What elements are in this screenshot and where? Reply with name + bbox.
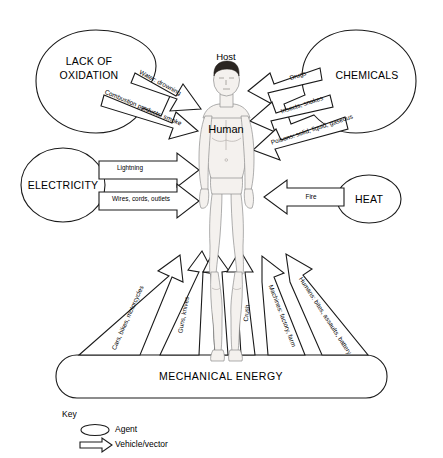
wires-cords-outlets-label: Wires, cords, outlets [112, 195, 170, 202]
key-item-agent: Agent [81, 424, 138, 435]
figure-torso [207, 110, 246, 178]
figure-right-foot [229, 350, 243, 361]
key-item-vehicle-vector-label: Vehicle/vector [115, 439, 168, 449]
lack-of-oxidation-label-line2: OXIDATION [60, 69, 119, 81]
ellipse-icon [81, 425, 109, 436]
mechanical-energy-label: MECHANICAL ENERGY [159, 370, 283, 382]
lack-of-oxidation-label-line1: LACK OF [66, 55, 112, 67]
chemicals-label: CHEMICALS [335, 69, 398, 81]
key-item-agent-label: Agent [115, 424, 138, 434]
lightning-arrow-shape [99, 153, 199, 187]
arrow-icon [80, 438, 112, 452]
heat-label: HEAT [355, 193, 383, 205]
host-caption: Host [216, 51, 236, 62]
figure-left-hand [200, 189, 209, 208]
agent-electricity[interactable]: ELECTRICITY [21, 148, 105, 222]
key-title: Key [62, 409, 77, 419]
figure-right-hand [244, 189, 253, 208]
vector-lightning[interactable]: Lightning [99, 153, 199, 187]
vector-wires-cords-outlets[interactable]: Wires, cords, outlets [99, 184, 199, 218]
diagram-canvas: LACK OF OXIDATION Water: drowning Combus… [0, 0, 443, 458]
agent-mechanical-energy[interactable]: MECHANICAL ENERGY [56, 355, 387, 398]
key-item-vehicle-vector: Vehicle/vector [80, 438, 168, 452]
electricity-label: ELECTRICITY [28, 179, 98, 191]
host-body-label: Human [208, 123, 243, 135]
agent-heat[interactable]: HEAT [337, 175, 401, 223]
fire-label-text: Fire [305, 193, 316, 200]
figure-left-foot [211, 350, 225, 361]
key-legend: Key Agent Vehicle/vector [62, 409, 168, 452]
vector-fire[interactable]: Fire [264, 180, 344, 214]
injury-agent-diagram: LACK OF OXIDATION Water: drowning Combus… [0, 0, 443, 458]
lightning-label: Lightning [117, 164, 143, 172]
fire-arrow-shape [264, 180, 344, 214]
